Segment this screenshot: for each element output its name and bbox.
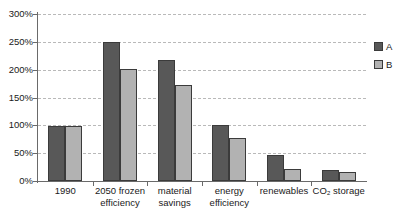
y-axis-tick-label: 100% <box>1 121 33 131</box>
bar-a <box>212 125 229 181</box>
bar-b <box>175 85 192 181</box>
bar-a <box>322 170 339 181</box>
legend-swatch-icon <box>374 60 383 69</box>
bar-group <box>48 14 82 181</box>
legend-label: B <box>386 60 392 70</box>
y-axis-tick-label: 200% <box>1 65 33 75</box>
bar-b <box>284 169 301 181</box>
plot-area <box>38 14 366 181</box>
y-axis-tick-label: 300% <box>1 9 33 19</box>
bar-groups <box>38 14 366 181</box>
legend-swatch-icon <box>374 42 383 51</box>
bar-group <box>212 14 246 181</box>
y-axis-tick-label: 150% <box>1 93 33 103</box>
bar-group <box>103 14 137 181</box>
bar-group <box>158 14 192 181</box>
bar-group <box>267 14 301 181</box>
bar-b <box>339 172 356 181</box>
y-axis-tick-label: 250% <box>1 37 33 47</box>
bar-a <box>267 155 284 181</box>
bar-b <box>120 69 137 181</box>
legend-item-b[interactable]: B <box>374 60 404 69</box>
bar-b <box>65 126 82 181</box>
x-axis-tick-label: CO₂ storage <box>305 185 372 197</box>
y-axis-labels: 0%50%100%150%200%250%300% <box>0 0 33 213</box>
y-axis-tick-label: 0% <box>1 176 33 186</box>
bar-b <box>229 138 246 181</box>
bar-a <box>158 60 175 181</box>
legend-label: A <box>386 42 392 52</box>
bar-group <box>322 14 356 181</box>
bar-a <box>103 42 120 181</box>
legend-item-a[interactable]: A <box>374 42 404 51</box>
y-axis-tick-label: 50% <box>1 148 33 158</box>
legend: AB <box>374 42 404 78</box>
bar-a <box>48 126 65 181</box>
bar-chart: 0%50%100%150%200%250%300% 19902050 froze… <box>0 0 404 213</box>
